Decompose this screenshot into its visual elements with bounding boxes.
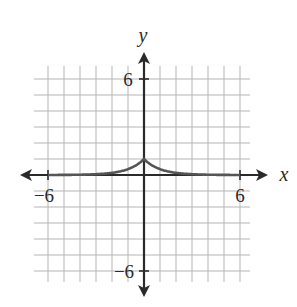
y-tick-label-6: 6 bbox=[123, 69, 133, 90]
y-axis-label: y bbox=[137, 24, 148, 47]
y-tick-label-neg6: −6 bbox=[114, 261, 134, 282]
x-tick-label-neg6: −6 bbox=[34, 185, 54, 206]
x-tick-label-6: 6 bbox=[235, 185, 245, 206]
coordinate-plane: x y −6 6 6 −6 bbox=[0, 0, 297, 307]
x-axis-label: x bbox=[279, 163, 289, 185]
